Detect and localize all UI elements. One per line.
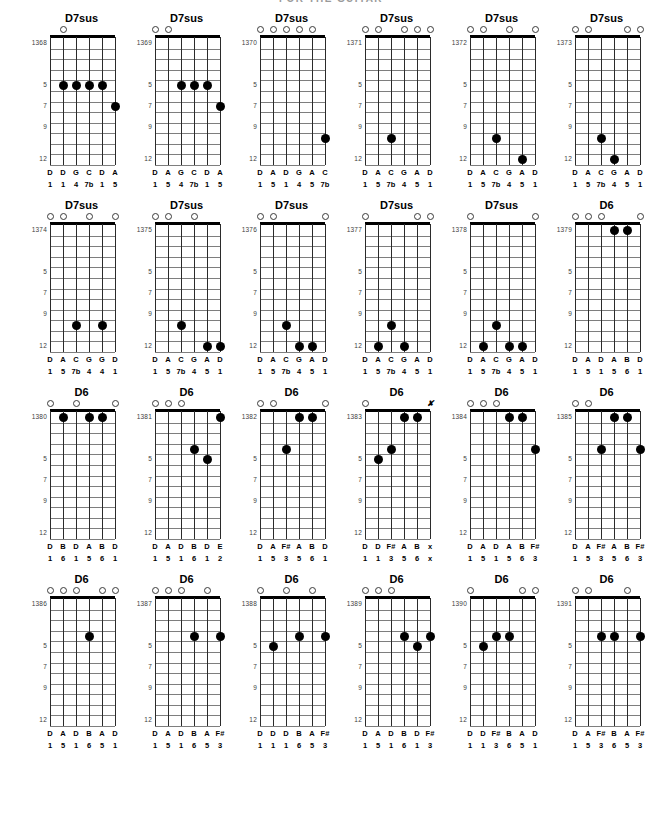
fret-grid bbox=[155, 35, 220, 165]
string-line bbox=[365, 411, 366, 539]
finger-dot bbox=[610, 155, 619, 164]
chord-name: D7sus bbox=[232, 199, 337, 212]
fret-line bbox=[50, 91, 115, 92]
fret-line bbox=[260, 299, 325, 300]
diagram-number: 1375 bbox=[127, 227, 152, 234]
open-string-icon bbox=[73, 587, 80, 594]
nut bbox=[155, 222, 220, 225]
string-line bbox=[286, 411, 287, 539]
string-line bbox=[535, 598, 536, 726]
finger-dot bbox=[295, 632, 304, 641]
fret-position-label: 12 bbox=[22, 530, 47, 537]
interval-degree: 1 bbox=[317, 367, 333, 377]
chord-name: D6 bbox=[547, 386, 652, 399]
fret-line bbox=[575, 486, 640, 487]
string-line bbox=[312, 598, 313, 726]
note-name: D bbox=[107, 355, 123, 365]
fret-line bbox=[470, 112, 535, 113]
chord-diagram: D7sus137357912DACGAD157b451 bbox=[547, 12, 652, 193]
note-label-row: DAF#ABF#153563 bbox=[575, 541, 640, 567]
string-line bbox=[207, 224, 208, 352]
finger-dot bbox=[400, 342, 409, 351]
nut bbox=[155, 409, 220, 412]
string-line bbox=[627, 224, 628, 352]
fret-line bbox=[470, 726, 535, 727]
chord-diagram: D6139057912DDF#BAD113651 bbox=[442, 573, 547, 754]
fret-line bbox=[50, 486, 115, 487]
string-marker-row bbox=[50, 25, 115, 35]
string-marker-row bbox=[470, 586, 535, 596]
fret-position-label: 12 bbox=[232, 717, 257, 724]
string-line bbox=[181, 224, 182, 352]
chord-name: D6 bbox=[22, 573, 127, 586]
fret-line bbox=[50, 620, 115, 621]
interval-degree: 3 bbox=[422, 741, 438, 751]
open-string-icon bbox=[532, 26, 539, 33]
open-string-icon bbox=[257, 400, 264, 407]
note-name: F# bbox=[632, 729, 648, 739]
string-line bbox=[115, 598, 116, 726]
string-line bbox=[76, 37, 77, 165]
fret-line bbox=[155, 652, 220, 653]
open-string-icon bbox=[532, 587, 539, 594]
string-line bbox=[312, 411, 313, 539]
fret-line bbox=[575, 320, 640, 321]
open-string-icon bbox=[585, 400, 592, 407]
chord-name: D7sus bbox=[442, 199, 547, 212]
fret-line bbox=[365, 102, 430, 103]
fret-position-label: 7 bbox=[337, 103, 362, 110]
fret-position-label: 7 bbox=[547, 290, 572, 297]
nut bbox=[50, 222, 115, 225]
fret-position-label: 12 bbox=[547, 156, 572, 163]
string-line bbox=[588, 224, 589, 352]
fretboard: 138957912 bbox=[337, 596, 442, 728]
string-line bbox=[220, 37, 221, 165]
fret-line bbox=[50, 341, 115, 342]
fret-position-label: 12 bbox=[337, 717, 362, 724]
fret-position-label: 5 bbox=[127, 456, 152, 463]
fret-line bbox=[470, 320, 535, 321]
fret-line bbox=[50, 246, 115, 247]
fret-position-label: 7 bbox=[232, 477, 257, 484]
nut bbox=[575, 222, 640, 225]
chord-row: D7sus136857912DDGCDA1147b15D7sus13695791… bbox=[0, 12, 662, 193]
fret-grid bbox=[575, 596, 640, 726]
chord-diagram: D7sus137557912DACGAD157b451 bbox=[127, 199, 232, 380]
fret-line bbox=[155, 444, 220, 445]
fretboard: 137057912 bbox=[232, 35, 337, 167]
fret-line bbox=[575, 236, 640, 237]
string-line bbox=[614, 37, 615, 165]
fret-position-label: 12 bbox=[442, 156, 467, 163]
fret-position-label: 5 bbox=[22, 643, 47, 650]
finger-dot bbox=[610, 413, 619, 422]
open-string-icon bbox=[86, 213, 93, 220]
note-label-row: DACGAD157b451 bbox=[575, 167, 640, 193]
open-string-icon bbox=[283, 587, 290, 594]
fret-line bbox=[575, 518, 640, 519]
fret-line bbox=[470, 610, 535, 611]
chord-row: D6138057912DBDABD161561D6138157912DADBDE… bbox=[0, 386, 662, 567]
fret-position-label: 5 bbox=[442, 82, 467, 89]
nut bbox=[365, 409, 430, 412]
open-string-icon bbox=[60, 26, 67, 33]
fret-line bbox=[365, 70, 430, 71]
fret-line bbox=[260, 705, 325, 706]
open-string-icon bbox=[322, 400, 329, 407]
finger-dot bbox=[374, 342, 383, 351]
fretboard: 137357912 bbox=[547, 35, 652, 167]
string-line bbox=[273, 224, 274, 352]
fret-line bbox=[50, 673, 115, 674]
open-string-icon bbox=[309, 587, 316, 594]
open-string-icon bbox=[165, 213, 172, 220]
chord-diagram: D6138457912DADABF#151563 bbox=[442, 386, 547, 567]
page-title: FOR THE GUITAR bbox=[0, 0, 662, 4]
fret-position-label: 9 bbox=[337, 498, 362, 505]
diagram-number: 1379 bbox=[547, 227, 572, 234]
fretboard: 136857912 bbox=[22, 35, 127, 167]
finger-dot bbox=[282, 445, 291, 454]
string-line bbox=[155, 411, 156, 539]
finger-dot bbox=[308, 413, 317, 422]
string-line bbox=[601, 224, 602, 352]
fret-line bbox=[155, 112, 220, 113]
string-line bbox=[312, 224, 313, 352]
